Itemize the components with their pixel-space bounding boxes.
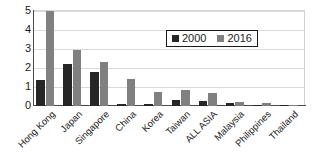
bar-group — [278, 10, 305, 106]
legend-item-2016: 2016 — [217, 33, 251, 44]
bar-2000 — [90, 72, 99, 106]
bar-group — [251, 10, 278, 106]
legend-swatch-2000 — [172, 35, 179, 42]
bar-group — [142, 10, 169, 106]
bar-2016 — [46, 11, 55, 106]
chart-legend: 2000 2016 — [166, 30, 258, 47]
y-tick-label: 1 — [3, 81, 31, 92]
legend-swatch-2016 — [217, 35, 224, 42]
bar-2016 — [73, 50, 82, 106]
legend-label-2016: 2016 — [227, 33, 251, 44]
bar-2016 — [100, 62, 109, 106]
bar-2016 — [208, 93, 217, 106]
legend-label-2000: 2000 — [182, 33, 206, 44]
legend-item-2000: 2000 — [172, 33, 206, 44]
bar-2000 — [36, 80, 45, 106]
bar-group — [115, 10, 142, 106]
bar-group — [224, 10, 251, 106]
y-tick-label: 0 — [3, 100, 31, 111]
y-tick-label: 2 — [3, 62, 31, 73]
bar-2000 — [63, 64, 72, 106]
bars-layer — [34, 10, 305, 106]
bar-chart: 5 4 3 2 1 0 Hong KongJapanSingaporeChina… — [0, 0, 322, 168]
y-axis-ticks: 5 4 3 2 1 0 — [0, 10, 31, 106]
x-axis-label: Korea — [140, 109, 165, 134]
y-tick-label: 4 — [3, 24, 31, 35]
y-tick-label: 3 — [3, 43, 31, 54]
x-axis-label: China — [113, 109, 138, 134]
bar-2016 — [127, 79, 136, 106]
bar-group — [34, 10, 61, 106]
x-axis-labels: Hong KongJapanSingaporeChinaKoreaTaiwanA… — [34, 106, 305, 168]
bar-2016 — [154, 92, 163, 106]
bar-group — [61, 10, 88, 106]
bar-group — [170, 10, 197, 106]
y-tick-label: 5 — [3, 5, 31, 16]
x-axis-label: Hong Kong — [16, 109, 57, 150]
x-axis-label: Thailand — [268, 109, 301, 142]
bar-group — [197, 10, 224, 106]
bar-group — [88, 10, 115, 106]
bar-2016 — [181, 90, 190, 106]
